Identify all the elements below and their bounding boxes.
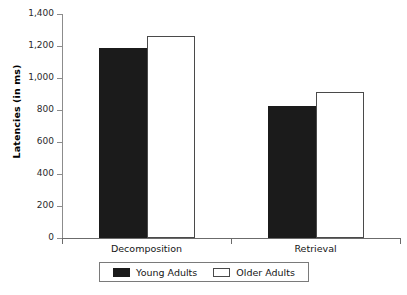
y-axis-tick-label: 1,000 xyxy=(4,73,54,82)
y-axis-tick-label: 600 xyxy=(4,137,54,146)
x-axis-category-label: Decomposition xyxy=(87,243,207,254)
legend-item-young-adults: Young Adults xyxy=(113,267,197,278)
y-axis-tick-label: 0 xyxy=(4,233,54,242)
chart-legend: Young Adults Older Adults xyxy=(99,262,309,282)
legend-item-older-adults: Older Adults xyxy=(213,267,295,278)
legend-label-older-adults: Older Adults xyxy=(236,267,295,278)
bar-retrieval-young-adults xyxy=(268,106,316,238)
y-axis-tick-label: 800 xyxy=(4,105,54,114)
bar-retrieval-older-adults xyxy=(316,92,364,238)
legend-label-young-adults: Young Adults xyxy=(136,267,197,278)
x-axis-tick xyxy=(400,238,401,244)
bars-layer xyxy=(62,14,400,238)
legend-swatch-open-icon xyxy=(213,268,230,277)
y-axis-tick-label: 200 xyxy=(4,201,54,210)
x-axis-category-label: Retrieval xyxy=(256,243,376,254)
bar-decomposition-young-adults xyxy=(99,48,147,238)
legend-swatch-filled-icon xyxy=(113,268,130,277)
y-axis-tick-label: 1,400 xyxy=(4,9,54,18)
y-axis-tick-label: 400 xyxy=(4,169,54,178)
bar-chart: Latencies (in ms) 1,4001,2001,0008006004… xyxy=(0,0,407,295)
bar-decomposition-older-adults xyxy=(147,36,195,238)
x-axis-tick xyxy=(62,238,63,244)
y-axis-tick-label: 1,200 xyxy=(4,41,54,50)
x-axis-tick xyxy=(231,238,232,244)
